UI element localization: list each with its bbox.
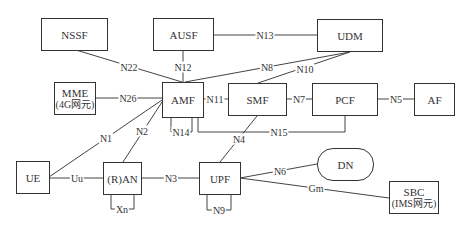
interface-n10-label: N10 (295, 64, 314, 75)
node-smf-label: SMF (246, 94, 268, 106)
interface-n13-label: N13 (255, 30, 274, 41)
interface-n9-label: N9 (212, 205, 226, 216)
node-upf: UPF (199, 162, 241, 195)
node-upf-label: UPF (210, 173, 230, 185)
node-af-label: AF (427, 94, 441, 106)
node-pcf: PCF (312, 83, 378, 116)
interface-n22-label: N22 (119, 62, 138, 73)
interface-n4-label: N4 (232, 134, 246, 145)
node-nssf-label: NSSF (61, 29, 87, 41)
5g-architecture-diagram: N22 N12 N13 N8 N10 N26 N11 N7 N5 N14 N15… (0, 0, 467, 225)
node-mme-sublabel: (4G网元) (56, 99, 95, 111)
node-pcf-label: PCF (335, 94, 355, 106)
interface-n26-label: N26 (118, 93, 137, 104)
node-sbc-label: SBC (404, 186, 425, 198)
interface-n8-label: N8 (260, 62, 274, 73)
node-ue: UE (16, 161, 50, 194)
interface-xn-label: Xn (115, 204, 129, 215)
interface-n1-label: N1 (99, 133, 113, 144)
node-smf: SMF (228, 83, 287, 116)
node-ran-label: (R)AN (107, 173, 138, 185)
node-af: AF (414, 83, 455, 116)
interface-n14-label: N14 (171, 127, 190, 138)
node-udm: UDM (317, 19, 383, 52)
node-amf: AMF (162, 82, 204, 118)
interface-n11-label: N11 (206, 94, 225, 105)
interface-uu-label: Uu (70, 173, 84, 184)
node-ausf-label: AUSF (169, 29, 197, 41)
interface-n12-label: N12 (173, 62, 192, 73)
node-sbc: SBC (IMS网元) (389, 181, 439, 214)
interface-n2-label: N2 (135, 126, 149, 137)
node-ue-label: UE (26, 172, 41, 184)
interface-n6-label: N6 (273, 166, 287, 177)
node-dn-label: DN (338, 159, 354, 171)
node-dn: DN (317, 148, 374, 181)
node-amf-label: AMF (171, 94, 195, 106)
node-ran: (R)AN (103, 162, 142, 195)
interface-n7-label: N7 (292, 94, 306, 105)
interface-n3-label: N3 (164, 173, 178, 184)
interface-n15-label: N15 (269, 127, 288, 138)
node-mme-label: MME (62, 87, 88, 99)
interface-n5-label: N5 (389, 94, 403, 105)
node-mme: MME (4G网元) (54, 82, 96, 115)
node-nssf: NSSF (41, 18, 108, 51)
node-sbc-sublabel: (IMS网元) (392, 198, 436, 210)
node-udm-label: UDM (337, 30, 363, 42)
interface-gm-label: Gm (308, 183, 325, 194)
node-ausf: AUSF (153, 18, 214, 51)
